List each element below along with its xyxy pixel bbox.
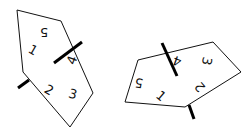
right-label: 5 (134, 75, 145, 91)
right-label: 4 (171, 53, 184, 70)
left-cut-mark-2 (18, 80, 29, 88)
left-pentagon-group: 5 1 4 2 3 (17, 10, 93, 127)
right-pentagon-group: 4 3 5 2 1 (125, 42, 241, 119)
left-label: 5 (40, 25, 48, 40)
left-label: 1 (26, 41, 41, 58)
right-cut-mark-2 (189, 105, 194, 119)
puzzle-diagram: 5 1 4 2 3 4 3 5 2 1 (0, 0, 251, 134)
left-label: 4 (64, 54, 81, 67)
left-pentagon (17, 10, 93, 127)
left-label: 3 (67, 86, 79, 103)
right-label: 1 (153, 88, 169, 105)
right-label: 2 (192, 79, 209, 95)
right-pentagon (125, 42, 241, 107)
right-label: 3 (199, 56, 215, 67)
